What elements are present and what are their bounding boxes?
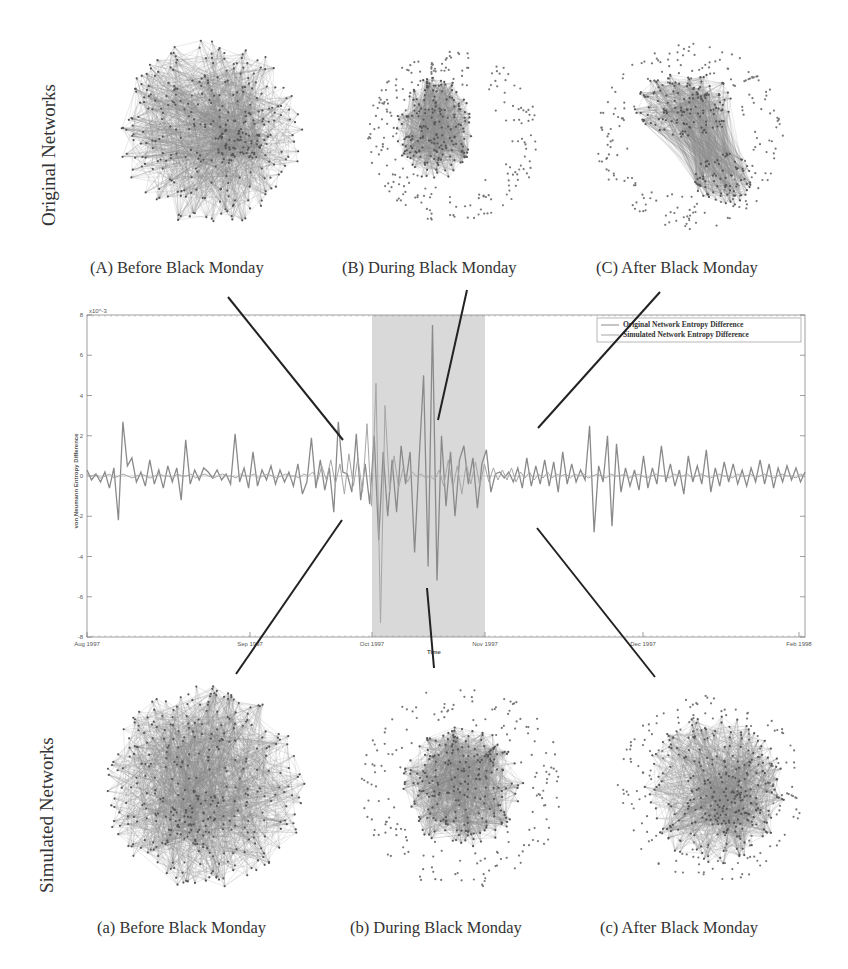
y-tick-label: -4	[78, 554, 84, 560]
network-graph-simulated-after	[610, 682, 810, 897]
row-label-simulated-networks: Simulated Networks	[36, 737, 58, 893]
entropy-difference-chart: 86420-2-4-6-8x10^-3von Neumann Entropy D…	[87, 315, 805, 637]
y-tick-label: 6	[80, 352, 84, 358]
network-graph-original-before	[110, 25, 310, 240]
y-tick-label: 8	[80, 312, 84, 318]
caption-original-before: (A) Before Black Monday	[90, 258, 264, 278]
x-tick-label: Oct 1997	[360, 641, 385, 647]
network-graph-simulated-before	[98, 680, 313, 895]
x-tick-label: Feb 1998	[786, 641, 812, 647]
y-tick-label: 4	[80, 393, 84, 399]
x-axis-label: Time	[427, 649, 442, 655]
caption-original-after: (C) After Black Monday	[596, 258, 758, 278]
caption-original-during: (B) During Black Monday	[342, 258, 517, 278]
y-tick-label: 0	[80, 473, 84, 479]
x-tick-label: Sep 1997	[237, 641, 263, 647]
row-label-original-networks: Original Networks	[38, 84, 60, 226]
x-tick-label: Aug 1997	[74, 641, 100, 647]
x-tick-label: Nov 1997	[472, 641, 498, 647]
chart-legend: Original Network Entropy DifferenceSimul…	[597, 318, 801, 342]
x-tick-label: Dec 1997	[630, 641, 656, 647]
network-graph-original-during	[360, 30, 545, 245]
y-tick-label: 2	[80, 433, 84, 439]
caption-simulated-after: (c) After Black Monday	[600, 918, 758, 938]
caption-simulated-before: (a) Before Black Monday	[97, 918, 266, 938]
y-axis-label: von Neumann Entropy Difference	[73, 433, 79, 529]
line-chart: 86420-2-4-6-8x10^-3von Neumann Entropy D…	[87, 315, 805, 637]
y-exponent-label: x10^-3	[89, 308, 107, 314]
caption-simulated-during: (b) During Black Monday	[350, 918, 522, 938]
legend-entry: Simulated Network Entropy Difference	[623, 330, 749, 339]
network-graph-simulated-during	[355, 680, 570, 895]
y-tick-label: -6	[78, 594, 84, 600]
y-tick-label: -8	[78, 634, 84, 640]
legend-entry: Original Network Entropy Difference	[623, 320, 744, 329]
network-graph-original-after	[590, 30, 790, 245]
